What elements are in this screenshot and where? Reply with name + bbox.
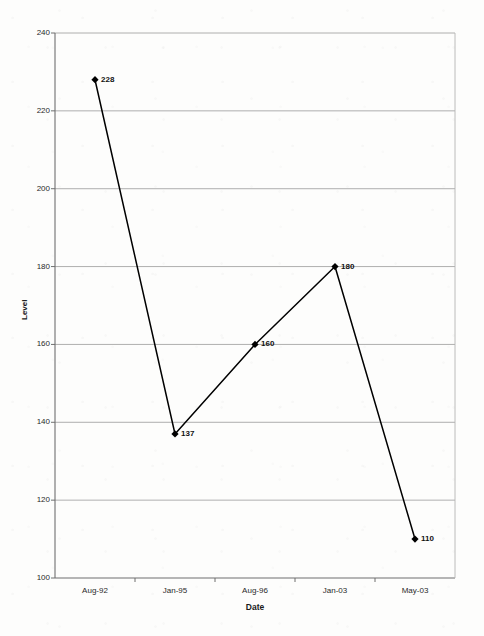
data-point-label: 137 (181, 429, 194, 438)
x-axis-title: Date (195, 602, 315, 612)
x-axis-tick-label: May-03 (375, 586, 455, 595)
x-axis-tick-label: Jan-03 (295, 586, 375, 595)
x-axis-tick-marks (135, 578, 375, 582)
series-line-level (95, 80, 415, 539)
plot-canvas (0, 0, 484, 636)
y-axis-tick-label: 160 (18, 339, 50, 348)
y-axis-tick-label: 180 (18, 262, 50, 271)
data-point-label: 110 (421, 534, 434, 543)
data-point-marker (411, 535, 418, 542)
y-axis-tick-label: 120 (18, 495, 50, 504)
data-point-marker (91, 76, 98, 83)
series-markers-group (91, 76, 418, 543)
y-axis-tick-label: 140 (18, 417, 50, 426)
y-axis-tick-label: 100 (18, 573, 50, 582)
x-axis-tick-label: Aug-96 (215, 586, 295, 595)
y-axis-tick-marks (51, 33, 55, 578)
y-axis-tick-label: 200 (18, 184, 50, 193)
x-axis-tick-label: Jan-95 (135, 586, 215, 595)
y-axis-tick-label: 220 (18, 106, 50, 115)
line-chart-figure: 240220200180160140120100 Aug-92Jan-95Aug… (0, 0, 484, 636)
data-point-label: 160 (261, 339, 274, 348)
y-axis-tick-label: 240 (18, 28, 50, 37)
y-axis-title: Level (20, 299, 29, 319)
gridlines-group (55, 33, 455, 500)
x-axis-tick-label: Aug-92 (55, 586, 135, 595)
data-point-label: 228 (101, 75, 114, 84)
data-point-label: 180 (341, 262, 354, 271)
